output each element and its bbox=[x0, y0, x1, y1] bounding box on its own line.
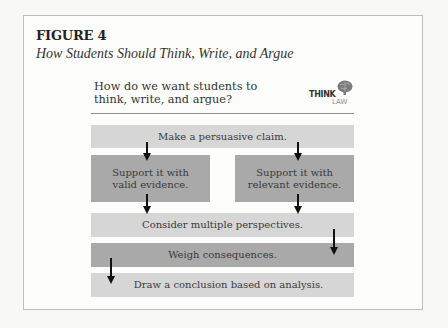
step-multiple-perspectives: Consider multiple perspectives. bbox=[91, 213, 354, 237]
thinklaw-logo: THINK LAW bbox=[309, 80, 355, 108]
diagram-question: How do we want students to think, write,… bbox=[94, 80, 294, 106]
figure-label: FIGURE 4 bbox=[36, 28, 106, 43]
step-relevant-evidence: Support it with relevant evidence. bbox=[235, 155, 354, 202]
step-valid-evidence: Support it with valid evidence. bbox=[91, 155, 210, 202]
brain-icon bbox=[337, 80, 353, 95]
step-weigh-consequences: Weigh consequences. bbox=[91, 243, 354, 267]
step-persuasive-claim: Make a persuasive claim. bbox=[91, 125, 354, 148]
figure-caption: How Students Should Think, Write, and Ar… bbox=[36, 46, 293, 62]
step-draw-conclusion: Draw a conclusion based on analysis. bbox=[91, 273, 354, 297]
logo-law-text: LAW bbox=[332, 98, 347, 106]
header-rule bbox=[91, 113, 354, 114]
